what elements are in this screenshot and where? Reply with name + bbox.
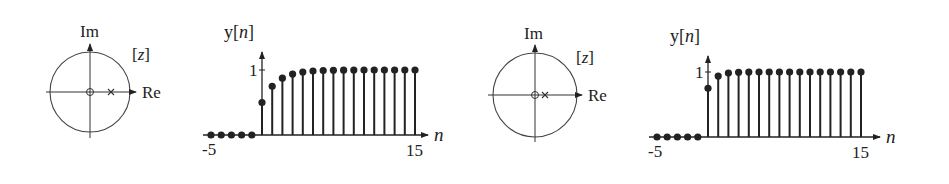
- stem-marker: [766, 68, 773, 75]
- stem-marker: [360, 66, 367, 73]
- stem-marker: [309, 67, 316, 74]
- y-tick-label: 1: [249, 61, 258, 80]
- x-tick-label-left: -5: [648, 142, 662, 161]
- stem-marker: [776, 68, 783, 75]
- stem-plot-2: y[n]1n-515: [648, 26, 896, 162]
- stem-marker: [238, 131, 245, 138]
- stem-marker: [350, 66, 357, 73]
- y-tick-label: 1: [695, 63, 704, 82]
- stem-marker: [817, 68, 824, 75]
- stem-marker: [299, 68, 306, 75]
- stem-plot-1: y[n]1n-515: [202, 22, 444, 160]
- stem-marker: [269, 83, 276, 90]
- stem-marker: [371, 66, 378, 73]
- stem-marker: [786, 68, 793, 75]
- y-axis-label: y[n]: [670, 26, 700, 46]
- real-axis-label: Re: [142, 83, 161, 102]
- stem-marker: [401, 66, 408, 73]
- stem-marker: [806, 68, 813, 75]
- stem-marker: [684, 133, 691, 140]
- stem-marker: [653, 133, 660, 140]
- stem-marker: [248, 131, 255, 138]
- plane-label: [z]: [132, 45, 150, 64]
- figure: Im Re [z] y[n]1n-515 Im Re [z] y[n]1n-51…: [0, 0, 949, 184]
- stem-marker: [320, 67, 327, 74]
- stem-marker: [279, 75, 286, 82]
- stem-marker: [228, 131, 235, 138]
- stem-marker: [391, 66, 398, 73]
- stem-marker: [745, 68, 752, 75]
- imag-axis-label: Im: [524, 24, 543, 43]
- stem-marker: [725, 69, 732, 76]
- x-tick-label-right: 15: [852, 143, 869, 162]
- stem-marker: [664, 133, 671, 140]
- stem-marker: [207, 131, 214, 138]
- x-tick-label-left: -5: [202, 140, 216, 159]
- stem-marker: [755, 68, 762, 75]
- stem-marker: [330, 67, 337, 74]
- stem-marker: [796, 68, 803, 75]
- x-axis-label: n: [434, 124, 444, 145]
- stem-marker: [340, 67, 347, 74]
- stem-marker: [857, 68, 864, 75]
- stem-marker: [289, 70, 296, 77]
- stem-marker: [218, 131, 225, 138]
- pole-zero-plot-2: Im Re [z]: [488, 24, 607, 142]
- stem-marker: [715, 72, 722, 79]
- stem-marker: [694, 133, 701, 140]
- stem-marker: [847, 68, 854, 75]
- stem-marker: [827, 68, 834, 75]
- stem-marker: [704, 85, 711, 92]
- plane-label: [z]: [576, 48, 594, 67]
- pole-zero-plot-1: Im Re [z]: [46, 22, 161, 138]
- x-axis-label: n: [886, 126, 896, 147]
- stem-marker: [674, 133, 681, 140]
- x-tick-label-right: 15: [406, 141, 423, 160]
- stem-marker: [258, 99, 265, 106]
- stem-marker: [381, 66, 388, 73]
- stem-marker: [411, 66, 418, 73]
- stem-marker: [837, 68, 844, 75]
- y-axis-label: y[n]: [224, 22, 254, 42]
- real-axis-label: Re: [588, 86, 607, 105]
- imag-axis-label: Im: [80, 22, 99, 41]
- stem-marker: [735, 69, 742, 76]
